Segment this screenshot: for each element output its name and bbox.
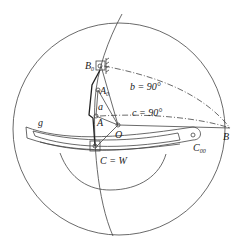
label-A: A	[96, 117, 104, 128]
label-O: O	[115, 129, 122, 140]
label-b-angle: b = 90°	[130, 81, 161, 92]
spherical-mechanism-diagram: B0 A0 a A O g B C00 C = W b = 90° c = 90…	[0, 0, 238, 248]
arc-b	[104, 66, 230, 128]
label-c-angle: c = 90°	[132, 107, 162, 118]
label-B: B	[223, 131, 229, 142]
pivot-c00	[191, 133, 195, 137]
label-a: a	[98, 101, 103, 112]
label-c00: C00	[193, 142, 206, 154]
guide-g-inner	[33, 131, 180, 146]
label-a0: A0	[99, 85, 109, 97]
label-b0: B0	[85, 60, 94, 72]
ground-hatch	[106, 58, 109, 74]
label-g: g	[38, 117, 43, 128]
label-c-eq-w: C = W	[100, 155, 128, 166]
line-ob	[118, 125, 230, 128]
